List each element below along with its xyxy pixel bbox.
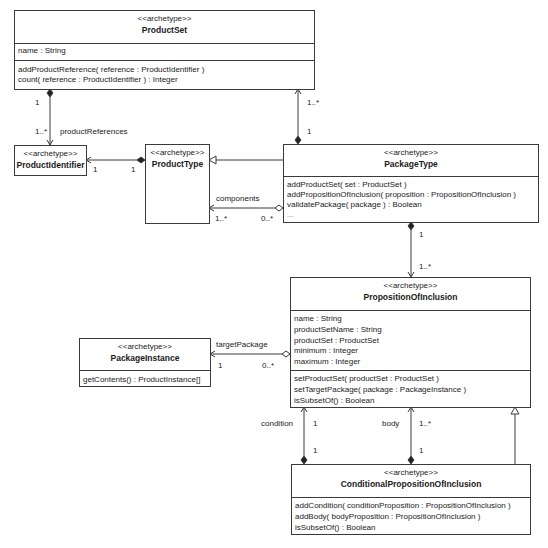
class-product-identifier[interactable]: <<archetype>> ProductIdentifier xyxy=(14,145,87,176)
multiplicity-label: 1 xyxy=(93,165,97,175)
multiplicity-label: 1 xyxy=(313,419,317,429)
attribute: productSet : ProductSet xyxy=(294,336,527,347)
class-name: PackageType xyxy=(284,158,538,170)
role-label: productReferences xyxy=(60,127,128,137)
class-package-instance[interactable]: <<archetype>> PackageInstance getContent… xyxy=(79,338,211,387)
class-product-set[interactable]: <<archetype>> ProductSet name : String a… xyxy=(14,10,315,90)
class-conditional-proposition-of-inclusion[interactable]: <<archetype>> ConditionalPropositionOfIn… xyxy=(291,464,531,535)
attribute: name : String xyxy=(294,314,527,325)
stereotype: <<archetype>> xyxy=(15,13,314,24)
operation: addCondition( conditionProposition : Pro… xyxy=(295,501,527,512)
stereotype: <<archetype>> xyxy=(284,147,538,158)
multiplicity-label: 1..* xyxy=(35,127,47,137)
attribute: productSetName : String xyxy=(294,325,527,336)
composition-diamond xyxy=(408,456,414,464)
operations-compartment: setProductSet( productSet : ProductSet )… xyxy=(291,370,530,408)
composition-diamond xyxy=(295,136,301,144)
class-product-type[interactable]: <<archetype>> ProductType xyxy=(145,144,210,224)
multiplicity-label: 0..* xyxy=(261,214,273,224)
multiplicity-label: 1 xyxy=(313,446,317,456)
multiplicity-label: 1..* xyxy=(307,98,319,108)
attribute: minimum : Integer xyxy=(294,346,527,357)
role-label: condition xyxy=(261,419,293,429)
operation: addProductReference( reference : Product… xyxy=(18,65,311,75)
role-label: body xyxy=(382,419,399,429)
class-name: PackageInstance xyxy=(80,352,210,364)
class-name: PropositionOfInclusion xyxy=(291,291,530,303)
composition-diamond xyxy=(137,157,145,163)
operation-ellipsis: ... xyxy=(287,210,535,220)
aggregation-diamond xyxy=(275,205,283,211)
role-label: targetPackage xyxy=(216,340,268,350)
multiplicity-label: 1 xyxy=(218,361,222,371)
composition-diamond xyxy=(47,89,53,97)
operation: isSubsetOf() : Boolean xyxy=(295,523,527,534)
stereotype: <<archetype>> xyxy=(15,148,86,159)
multiplicity-label: 1 xyxy=(35,98,39,108)
operation: validatePackage( package ) : Boolean xyxy=(287,200,535,210)
operations-compartment: getContents() : ProductInstance[] xyxy=(80,370,210,387)
operation: addBody( bodyProposition : PropositionOf… xyxy=(295,512,527,523)
composition-diamond xyxy=(301,456,307,464)
operation: addPropositionOfInclusion( proposition :… xyxy=(287,190,535,200)
operation: getContents() : ProductInstance[] xyxy=(83,375,207,385)
role-label: components xyxy=(216,194,260,204)
composition-diamond xyxy=(408,222,414,230)
multiplicity-label: 1..* xyxy=(419,419,431,429)
attributes-compartment: name : String xyxy=(15,43,314,60)
class-name: ConditionalPropositionOfInclusion xyxy=(292,478,530,490)
class-package-type[interactable]: <<archetype>> PackageType addProductSet(… xyxy=(283,144,539,223)
operations-compartment: addProductReference( reference : Product… xyxy=(15,60,314,87)
class-name: ProductType xyxy=(146,158,209,170)
multiplicity-label: 1 xyxy=(307,127,311,137)
multiplicity-label: 1 xyxy=(131,165,135,175)
operations-compartment: addCondition( conditionProposition : Pro… xyxy=(292,497,530,535)
operation: count( reference : ProductIdentifier ) :… xyxy=(18,75,311,85)
class-proposition-of-inclusion[interactable]: <<archetype>> PropositionOfInclusion nam… xyxy=(290,277,531,408)
attribute: name : String xyxy=(18,46,311,56)
generalization-triangle xyxy=(209,156,216,164)
operation: isSubsetOf() : Boolean xyxy=(294,396,527,407)
multiplicity-label: 0..* xyxy=(262,361,274,371)
operation: setProductSet( productSet : ProductSet ) xyxy=(294,374,527,385)
attribute: maximum : Integer xyxy=(294,357,527,368)
multiplicity-label: 1..* xyxy=(419,262,431,272)
stereotype: <<archetype>> xyxy=(80,341,210,352)
class-name: ProductIdentifier xyxy=(15,159,86,171)
attributes-compartment: name : String productSetName : String pr… xyxy=(291,310,530,370)
multiplicity-label: 1..* xyxy=(215,214,227,224)
operation: addProductSet( set : ProductSet ) xyxy=(287,180,535,190)
operation: setTargetPackage( package : PackageInsta… xyxy=(294,385,527,396)
stereotype: <<archetype>> xyxy=(291,280,530,291)
multiplicity-label: 1 xyxy=(419,230,423,240)
stereotype: <<archetype>> xyxy=(146,147,209,158)
class-name: ProductSet xyxy=(15,24,314,36)
multiplicity-label: 1 xyxy=(419,446,423,456)
aggregation-diamond xyxy=(282,351,290,357)
stereotype: <<archetype>> xyxy=(292,467,530,478)
operations-compartment: addProductSet( set : ProductSet ) addPro… xyxy=(284,176,538,222)
